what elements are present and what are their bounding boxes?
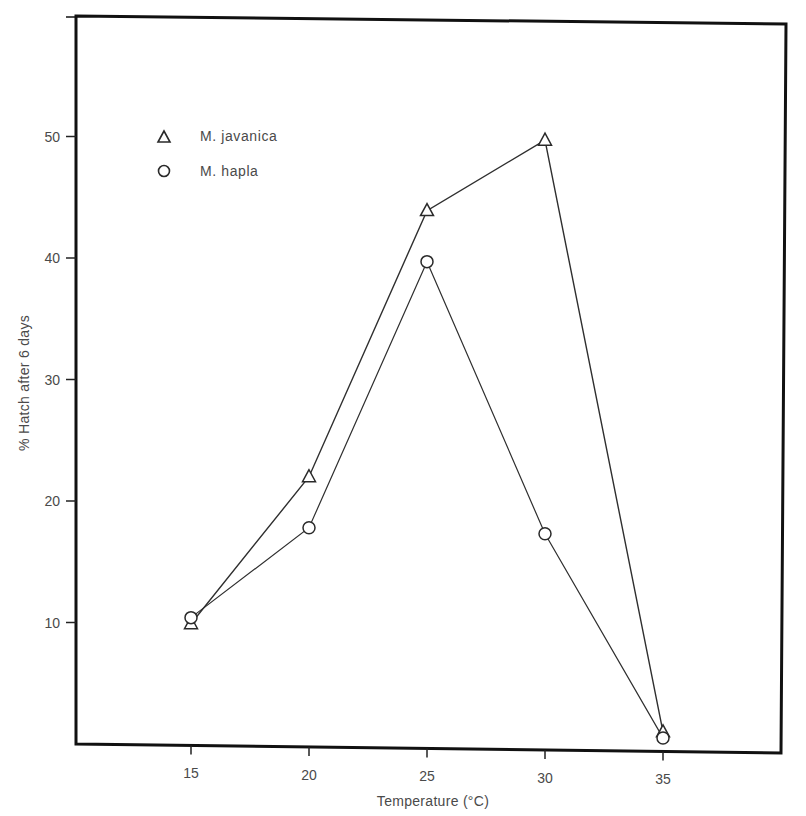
x-tick-label: 35 (655, 771, 671, 787)
y-tick-label: 20 (44, 493, 60, 509)
y-tick: 10 (44, 615, 76, 631)
line-chart: 1020304050 1520253035 Temperature (°C) %… (0, 0, 806, 816)
triangle-marker (539, 133, 552, 145)
series-layer (185, 133, 670, 744)
triangle-marker (421, 204, 434, 216)
triangle-marker (303, 470, 316, 482)
legend-label-hapla: M. hapla (200, 163, 259, 179)
x-tick: 25 (419, 748, 435, 784)
x-tick: 15 (183, 745, 199, 781)
circle-icon (159, 166, 170, 177)
circle-marker (539, 528, 551, 540)
y-tick-label: 40 (44, 250, 60, 266)
y-tick: 50 (44, 129, 76, 145)
x-tick-label: 15 (183, 765, 199, 781)
y-axis-title: % Hatch after 6 days (16, 315, 32, 451)
legend-item-javanica: M. javanica (158, 128, 277, 144)
y-tick: 30 (44, 372, 76, 388)
circle-marker (303, 522, 315, 534)
legend: M. javanica M. hapla (158, 128, 277, 179)
x-tick: 30 (537, 750, 553, 786)
series-triangle (185, 133, 670, 737)
series-line (191, 140, 663, 732)
circle-marker (421, 256, 433, 268)
x-tick-label: 30 (537, 770, 553, 786)
legend-label-javanica: M. javanica (200, 128, 277, 144)
circle-marker (657, 732, 669, 744)
circle-marker (185, 612, 197, 624)
triangle-icon (158, 131, 170, 142)
x-axis-title: Temperature (°C) (377, 793, 489, 809)
legend-item-hapla: M. hapla (159, 163, 259, 179)
y-tick-label: 50 (44, 129, 60, 145)
x-tick: 35 (655, 751, 671, 787)
series-line (191, 262, 663, 738)
y-tick-label: 30 (44, 372, 60, 388)
x-tick-label: 20 (301, 767, 317, 783)
x-tick: 20 (301, 747, 317, 783)
y-tick: 20 (44, 493, 76, 509)
x-tick-label: 25 (419, 768, 435, 784)
y-tick-label: 10 (44, 615, 60, 631)
series-circle (185, 256, 669, 744)
plot-frame (76, 16, 786, 753)
y-axis-ticks: 1020304050 (44, 129, 76, 631)
y-tick: 40 (44, 250, 76, 266)
